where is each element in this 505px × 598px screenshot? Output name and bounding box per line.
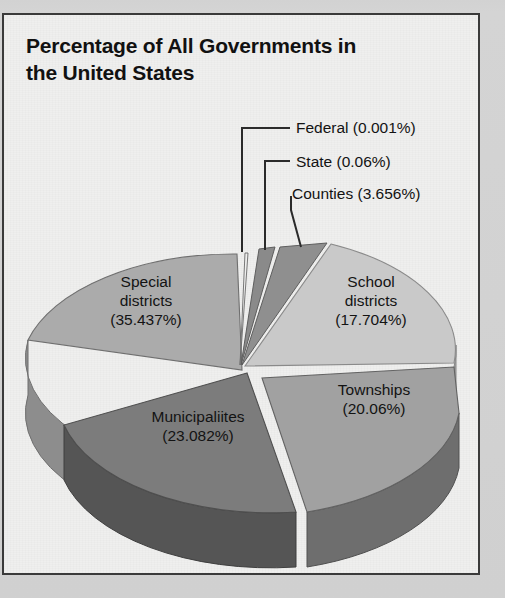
pie-chart: Special districts (35.437%) School distr… <box>4 15 478 573</box>
slice-label-school-districts-value: (17.704%) <box>306 311 436 330</box>
slice-label-special-districts: Special districts (35.437%) <box>76 273 216 330</box>
leader-line-state <box>265 161 290 250</box>
slice-label-townships: Townships (20.06%) <box>309 381 439 419</box>
slice-label-municipalities-line1: Municipaliites <box>112 408 284 427</box>
slice-label-townships-line1: Townships <box>309 381 439 400</box>
slice-label-special-districts-line2: districts <box>76 292 216 311</box>
callout-label-state: State (0.06%) <box>296 153 391 172</box>
figure-frame: Percentage of All Governments in the Uni… <box>2 13 480 575</box>
slice-label-school-districts-line2: districts <box>306 292 436 311</box>
callout-label-counties: Counties (3.656%) <box>292 185 420 204</box>
slice-label-special-districts-value: (35.437%) <box>76 311 216 330</box>
slice-label-municipalities: Municipaliites (23.082%) <box>112 408 284 446</box>
callout-label-federal: Federal (0.001%) <box>296 119 416 138</box>
page-background: Percentage of All Governments in the Uni… <box>0 0 505 598</box>
slice-label-townships-value: (20.06%) <box>309 400 439 419</box>
slice-label-school-districts-line1: School <box>306 273 436 292</box>
slice-label-special-districts-line1: Special <box>76 273 216 292</box>
slice-label-municipalities-value: (23.082%) <box>112 427 284 446</box>
leader-line-counties <box>291 196 301 247</box>
slice-label-school-districts: School districts (17.704%) <box>306 273 436 330</box>
